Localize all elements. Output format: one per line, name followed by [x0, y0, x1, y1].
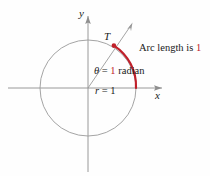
y-axis-label: y: [79, 8, 84, 19]
arc-length-value: 1: [196, 42, 201, 53]
angle-equals: =: [99, 65, 110, 76]
angle-unit: radian: [116, 65, 145, 76]
point-t-label: T: [104, 31, 110, 42]
arc-length-prefix: Arc length is: [139, 42, 196, 53]
unit-circle-radian-diagram: y x T Arc length is 1 θ = 1 radian r = 1: [0, 0, 210, 176]
arc-length-annotation: Arc length is 1: [139, 43, 201, 54]
point-t-marker: [112, 43, 117, 48]
x-axis-label: x: [155, 90, 160, 101]
radius-annotation: r = 1: [95, 86, 116, 97]
angle-annotation: θ = 1 radian: [94, 66, 144, 77]
radius-equals: =: [99, 85, 110, 96]
radius-value: 1: [110, 85, 115, 96]
